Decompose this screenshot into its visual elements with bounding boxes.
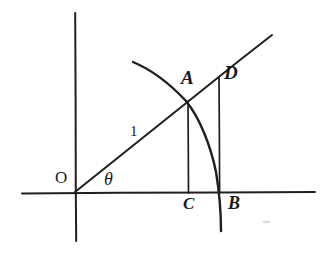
- x-axis-line: [22, 192, 315, 194]
- segment-db-line: [219, 77, 220, 193]
- point-label-d: D: [224, 63, 238, 82]
- scan-artifact-speck: [263, 221, 270, 223]
- angle-label-theta: θ: [104, 170, 113, 188]
- segment-ac-line: [188, 101, 189, 193]
- geometry-figure: A D C B O θ 1: [0, 0, 332, 255]
- point-label-c: C: [183, 195, 194, 212]
- figure-canvas: [0, 0, 332, 255]
- radius-label-one: 1: [130, 124, 138, 139]
- point-label-b: B: [228, 194, 240, 212]
- point-label-a: A: [181, 68, 194, 87]
- origin-label-o: O: [55, 169, 67, 186]
- unit-circle-arc: [133, 62, 221, 231]
- y-axis-line: [75, 13, 76, 241]
